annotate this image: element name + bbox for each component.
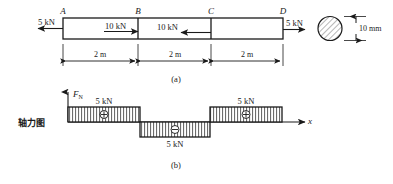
caption-a: (a)	[171, 74, 181, 84]
load-arrow-d: 5 kN	[283, 18, 305, 30]
x-axis-label: x	[307, 116, 312, 126]
diameter-label: 10 mm	[359, 24, 382, 33]
load-label-b: 10 kN	[105, 21, 126, 31]
span-label-ab: 2 m	[94, 50, 107, 59]
y-axis-label-sub: N	[79, 94, 84, 100]
span-label-cd: 2 m	[241, 50, 254, 59]
span-label-bc: 2 m	[169, 50, 182, 59]
node-label-a: A	[59, 6, 66, 16]
node-label-c: C	[208, 6, 215, 16]
cross-section-circle	[318, 17, 342, 41]
axial-label-cd: 5 kN	[238, 96, 255, 106]
axial-label-bc: 5 kN	[167, 139, 184, 149]
caption-b: (b)	[171, 160, 181, 170]
load-label-a: 5 kN	[38, 17, 55, 27]
cross-section-outline	[318, 17, 342, 41]
diagram-title-cn: 轴力图	[18, 117, 45, 128]
axial-force-figure: A B C D 5 kN 10 kN 10 kN 5 kN	[0, 0, 393, 184]
node-label-d: D	[279, 6, 287, 16]
load-label-d: 5 kN	[286, 18, 303, 28]
load-label-c: 10 kN	[157, 22, 178, 32]
axial-label-ab: 5 kN	[96, 96, 113, 106]
node-label-b: B	[135, 6, 141, 16]
